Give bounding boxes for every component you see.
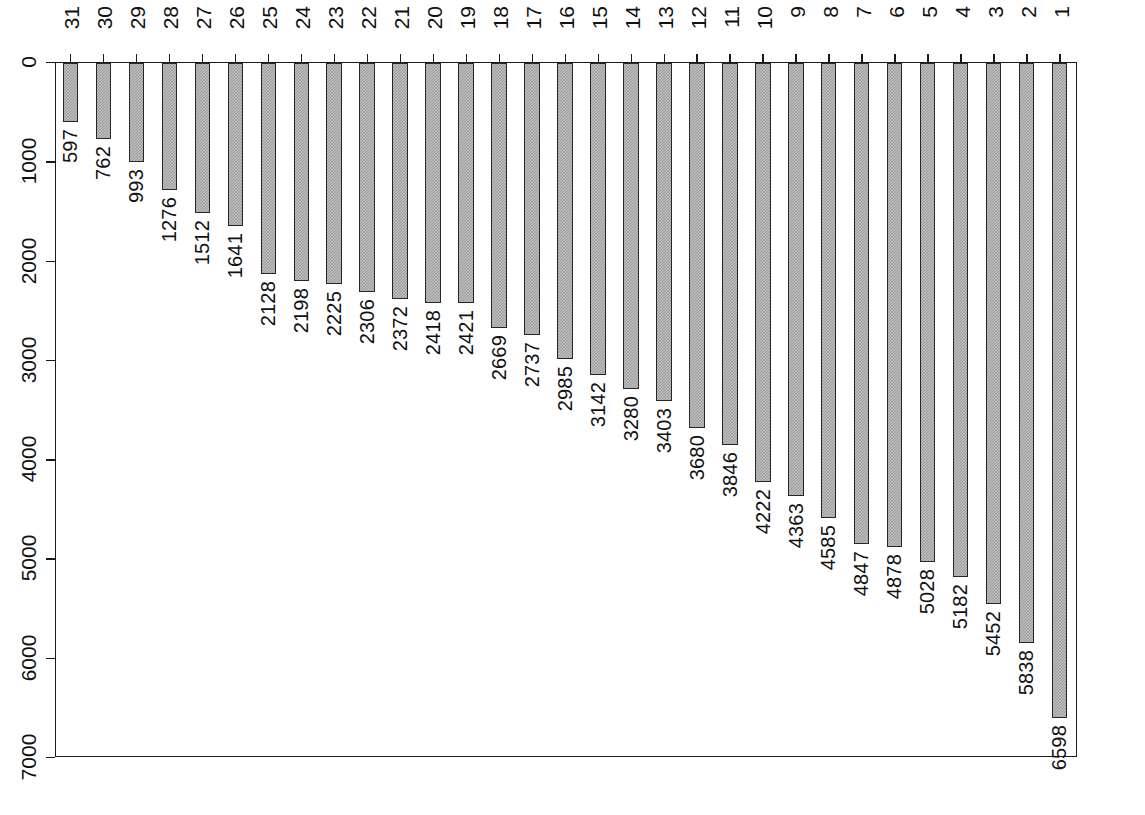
value-axis-tick xyxy=(46,658,55,659)
bar xyxy=(294,63,310,281)
category-axis-tick xyxy=(598,54,599,62)
bar-row: 5452 xyxy=(986,63,1002,758)
bar-value-label: 2669 xyxy=(488,335,511,380)
bar-row: 3680 xyxy=(689,63,705,758)
rank-label: 20 xyxy=(423,6,447,46)
bar xyxy=(755,63,771,482)
category-axis-tick xyxy=(103,54,104,62)
bar-row: 1276 xyxy=(162,63,178,758)
category-axis-tick xyxy=(235,54,236,62)
rank-label: 8 xyxy=(819,6,843,46)
rank-label: 15 xyxy=(588,6,612,46)
rank-label: 13 xyxy=(654,6,678,46)
bar xyxy=(63,63,79,122)
bar-value-label: 5838 xyxy=(1015,650,1038,695)
bar xyxy=(392,63,408,299)
bar-row: 762 xyxy=(96,63,112,758)
bar-value-label: 2306 xyxy=(356,299,379,344)
bar-value-label: 762 xyxy=(92,146,115,180)
rank-label: 2 xyxy=(1017,6,1041,46)
bar xyxy=(425,63,441,303)
category-axis-tick xyxy=(993,54,994,62)
bar xyxy=(326,63,342,284)
rank-label: 6 xyxy=(885,6,909,46)
bar-row: 2985 xyxy=(557,63,573,758)
category-axis-tick xyxy=(400,54,401,62)
bar-row: 6598 xyxy=(1052,63,1068,758)
bar-row: 2421 xyxy=(458,63,474,758)
rank-label: 17 xyxy=(522,6,546,46)
rank-label: 28 xyxy=(159,6,183,46)
bar xyxy=(722,63,738,445)
value-axis-tick-label: 3000 xyxy=(17,332,41,388)
rank-label: 21 xyxy=(390,6,414,46)
bar-row: 3280 xyxy=(623,63,639,758)
category-axis-tick xyxy=(960,54,961,62)
rank-label: 4 xyxy=(951,6,975,46)
bar-row: 1641 xyxy=(228,63,244,758)
rank-label: 23 xyxy=(324,6,348,46)
bar-value-label: 1512 xyxy=(191,220,214,265)
rank-label: 1 xyxy=(1050,6,1074,46)
bar-value-label: 2372 xyxy=(389,306,412,351)
bar-value-label: 4847 xyxy=(850,551,873,596)
bar-value-label: 993 xyxy=(125,169,148,203)
rank-label: 9 xyxy=(786,6,810,46)
category-axis-tick xyxy=(202,54,203,62)
bar-series: 6598583854525182502848784847458543634222… xyxy=(56,63,1076,756)
category-axis-tick xyxy=(499,54,500,62)
category-axis-tick xyxy=(1026,54,1027,62)
bar-row: 1512 xyxy=(195,63,211,758)
bar-row: 2372 xyxy=(392,63,408,758)
rank-label: 26 xyxy=(225,6,249,46)
value-axis-tick-label: 0 xyxy=(17,34,41,90)
bar xyxy=(986,63,1002,604)
category-axis-tick xyxy=(762,54,763,62)
bar-value-label: 3680 xyxy=(686,435,709,480)
bar xyxy=(788,63,804,496)
category-axis-tick xyxy=(927,54,928,62)
bar xyxy=(491,63,507,328)
bar-value-label: 2421 xyxy=(455,310,478,355)
bar-value-label: 5028 xyxy=(916,569,939,614)
category-axis-tick xyxy=(664,54,665,62)
bar xyxy=(96,63,112,139)
rank-label: 25 xyxy=(258,6,282,46)
bar xyxy=(953,63,969,577)
rank-label: 30 xyxy=(93,6,117,46)
bar xyxy=(887,63,903,547)
category-axis-tick xyxy=(565,54,566,62)
rank-label: 7 xyxy=(852,6,876,46)
category-axis-tick xyxy=(169,54,170,62)
bar xyxy=(920,63,936,562)
category-axis-tick xyxy=(367,54,368,62)
category-axis-tick xyxy=(466,54,467,62)
bar-value-label: 2225 xyxy=(323,291,346,336)
value-axis-tick-label: 7000 xyxy=(17,729,41,785)
bar-value-label: 597 xyxy=(59,129,82,163)
bar xyxy=(261,63,277,274)
bar-row: 4878 xyxy=(887,63,903,758)
category-axis-tick xyxy=(828,54,829,62)
value-axis-tick xyxy=(46,459,55,460)
category-axis-tick xyxy=(631,54,632,62)
category-axis-tick xyxy=(532,54,533,62)
bar-value-label: 2985 xyxy=(554,366,577,411)
bar-row: 4585 xyxy=(821,63,837,758)
bar xyxy=(557,63,573,359)
category-axis-tick xyxy=(334,54,335,62)
rank-label: 5 xyxy=(918,6,942,46)
bar xyxy=(458,63,474,303)
bar xyxy=(129,63,145,162)
rank-label: 19 xyxy=(456,6,480,46)
bar-row: 5028 xyxy=(920,63,936,758)
category-axis-tick xyxy=(696,54,697,62)
bar xyxy=(1019,63,1035,643)
rank-label: 16 xyxy=(555,6,579,46)
bar-row: 597 xyxy=(63,63,79,758)
bar-row: 2737 xyxy=(524,63,540,758)
category-axis-tick xyxy=(70,54,71,62)
bar-value-label: 2128 xyxy=(257,281,280,326)
bar xyxy=(359,63,375,292)
value-axis-tick xyxy=(46,261,55,262)
